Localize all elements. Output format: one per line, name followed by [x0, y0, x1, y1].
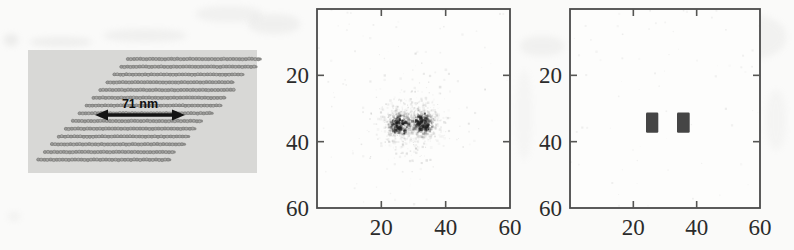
nanoparticle [66, 143, 69, 146]
nanoparticle [194, 96, 197, 99]
nanoparticle [64, 135, 67, 138]
nanoparticle [130, 88, 133, 91]
nanoparticle [69, 143, 72, 146]
nanoparticle [199, 81, 202, 84]
nanoparticle [102, 88, 105, 91]
nanoparticle [201, 58, 204, 61]
nanoparticle [110, 135, 113, 138]
nanoparticle [107, 104, 110, 107]
nanoparticle [104, 127, 107, 130]
nanoparticle [142, 88, 145, 91]
nanoparticle [213, 97, 216, 100]
nanoparticle [46, 158, 49, 161]
nanoparticle [63, 143, 66, 146]
nanoparticle [80, 119, 83, 122]
nanoparticle [216, 97, 219, 100]
nanoparticle [186, 88, 189, 91]
nanoparticle [232, 58, 235, 61]
nanoparticle [147, 73, 150, 76]
nanoparticle [183, 88, 186, 91]
nanoparticle [171, 81, 174, 84]
nanoparticle [142, 158, 145, 161]
nanoparticle [91, 112, 94, 115]
nanoparticle [70, 127, 73, 130]
nanoparticle [139, 127, 142, 130]
nanoparticle [151, 57, 154, 60]
nanoparticle [186, 58, 189, 61]
feature-rect [646, 113, 658, 133]
nanoparticle [50, 151, 53, 154]
nanoparticle [85, 104, 88, 107]
nanoparticle [87, 112, 90, 115]
nanoparticle [107, 135, 110, 138]
nanoparticle [87, 119, 90, 122]
nanoparticle [108, 88, 111, 91]
nanoparticle [93, 120, 96, 123]
nanoparticle [155, 150, 158, 153]
nanoparticle [87, 150, 90, 153]
nanoparticle [137, 143, 140, 146]
nanoparticle [132, 127, 135, 130]
figure-canvas: 71 nm204060204060204060204060 [0, 0, 794, 250]
nanoparticle [191, 65, 194, 68]
x-tick-label: 40 [434, 215, 457, 240]
nanoparticle [163, 96, 166, 99]
nanoparticle [163, 127, 166, 130]
nanoparticle [90, 151, 93, 154]
nanoparticle [136, 120, 139, 123]
nanoparticle [153, 135, 156, 138]
nanoparticle [54, 143, 57, 146]
nanoparticle [80, 127, 83, 130]
nanoparticle [104, 104, 107, 107]
nanoparticle [123, 135, 126, 138]
nanoparticle [111, 89, 114, 92]
nanoparticle [65, 151, 68, 154]
nanoparticle [88, 142, 91, 145]
nanoparticle [65, 158, 68, 161]
nanoparticle [231, 65, 234, 68]
nanoparticle [88, 135, 91, 138]
nanoparticle [116, 143, 119, 146]
nanoparticle [119, 143, 122, 146]
nanoparticle [136, 57, 139, 60]
nanoparticle [235, 58, 238, 61]
nanoparticle [120, 158, 123, 161]
nanoparticle [210, 97, 213, 100]
nanoparticle [199, 111, 202, 114]
nanoparticle [150, 65, 153, 68]
nanoparticle [133, 58, 136, 61]
nanoparticle [198, 58, 201, 61]
nanoparticle [116, 73, 119, 76]
nanoparticle [109, 81, 112, 84]
nanoparticle [81, 143, 84, 146]
nanoparticle [141, 135, 144, 138]
nanoparticle [190, 73, 193, 76]
nanoparticle [102, 119, 105, 122]
nanoparticle [229, 58, 232, 61]
nanoparticle [114, 158, 117, 161]
nanoparticle [175, 73, 178, 76]
nanoparticle [124, 81, 127, 84]
y-tick-label: 40 [539, 130, 562, 155]
nanoparticle [105, 158, 108, 161]
nanoparticle [208, 81, 211, 84]
nanoparticle [173, 89, 176, 92]
nanoparticle [248, 57, 251, 60]
schematic-panel: 71 nm [28, 50, 260, 173]
nanoparticle [180, 81, 183, 84]
nanoparticle [203, 96, 206, 99]
nanoparticle [145, 127, 148, 130]
nanoparticle [226, 81, 229, 84]
nanoparticle [97, 143, 100, 146]
nanoparticle [146, 142, 149, 145]
nanoparticle [77, 119, 80, 122]
y-tick-label: 20 [286, 63, 309, 88]
nanoparticle [120, 135, 123, 138]
nanoparticle [160, 104, 163, 107]
nanoparticle [129, 66, 132, 69]
nanoparticle [132, 135, 135, 138]
nanoparticle [244, 58, 247, 61]
nanoparticle [83, 128, 86, 131]
nanoparticle [148, 128, 151, 131]
nanoparticle [190, 112, 193, 115]
